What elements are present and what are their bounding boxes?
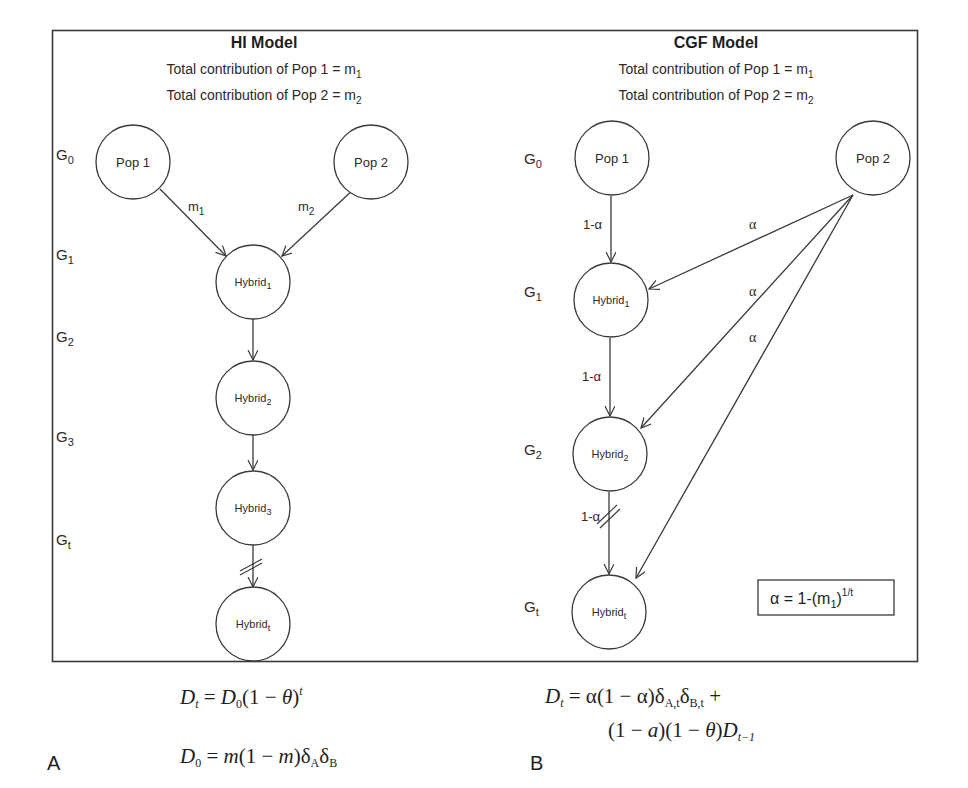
hi-generation-label: G2: [56, 328, 74, 348]
cgf-node-hybrid1: Hybrid1: [574, 263, 648, 337]
hi-node-pop1: Pop 1: [96, 125, 170, 199]
hi-node-pop2: Pop 2: [334, 125, 408, 199]
hi-model-title: HI Model: [231, 34, 298, 51]
panel-label-a: A: [47, 752, 60, 775]
cgf-edge-pop2-hybrid1: [649, 195, 853, 289]
hi-generation-label: G3: [56, 428, 74, 448]
hi-generation-break-icon: [240, 559, 262, 575]
svg-text:α = 1-(m1)1/t: α = 1-(m1)1/t: [770, 587, 853, 610]
cgf-edge-label-1-alpha: 1-α: [582, 369, 602, 384]
hi-contribution-pop2: Total contribution of Pop 2 = m2: [166, 87, 362, 106]
cgf-contribution-pop1: Total contribution of Pop 1 = m1: [618, 61, 814, 80]
svg-text:Pop 2: Pop 2: [354, 155, 388, 170]
svg-text:Pop 2: Pop 2: [856, 151, 890, 166]
hi-model-panel: HI Model Total contribution of Pop 1 = m…: [56, 34, 408, 661]
cgf-edge-label-alpha: α: [749, 284, 757, 299]
svg-text:Pop 1: Pop 1: [116, 155, 150, 170]
svg-text:Pop 1: Pop 1: [595, 151, 629, 166]
cgf-generation-label: G2: [524, 441, 542, 461]
cgf-generation-label: G0: [524, 150, 542, 170]
hi-node-hybrid2: Hybrid2: [216, 361, 290, 435]
hi-equation-d0: D0 = m(1 − m)δAδB: [180, 744, 337, 771]
cgf-contribution-pop2: Total contribution of Pop 2 = m2: [618, 87, 814, 106]
hi-edge-label-m1: m1: [188, 199, 205, 217]
cgf-equation-dt-line2: (1 − a)(1 − θ)Dt−1: [608, 718, 755, 745]
hi-node-hybrid1: Hybrid1: [216, 245, 290, 319]
cgf-edge-label-alpha: α: [749, 330, 757, 345]
cgf-node-pop1: Pop 1: [575, 121, 649, 195]
cgf-edge-label-alpha: α: [749, 217, 757, 232]
cgf-node-hybrid2: Hybrid2: [573, 417, 647, 491]
alpha-formula-box: α = 1-(m1)1/t: [758, 580, 894, 615]
hi-contribution-pop1: Total contribution of Pop 1 = m1: [166, 61, 362, 80]
hi-generation-label: G1: [56, 246, 74, 266]
hi-generation-label: Gt: [56, 531, 71, 551]
cgf-generation-label: Gt: [524, 598, 539, 618]
panel-label-b: B: [530, 752, 543, 775]
cgf-model-panel: CGF Model Total contribution of Pop 1 = …: [524, 34, 910, 649]
hi-node-hybrid3: Hybrid3: [216, 471, 290, 545]
cgf-edge-label-1-alpha: 1-α: [581, 509, 601, 524]
hi-node-hybridt: Hybridt: [216, 587, 290, 661]
cgf-node-pop2: Pop 2: [836, 121, 910, 195]
cgf-edge-pop2-hybrid2: [641, 195, 853, 428]
hi-generation-label: G0: [56, 146, 74, 166]
cgf-edge-pop2-hybridt: [636, 195, 853, 578]
cgf-equation-dt-line1: Dt = α(1 − α)δA,tδB,t +: [545, 684, 721, 711]
hi-edge-pop2-hybrid1: [282, 188, 355, 256]
admixture-models-diagram: HI Model Total contribution of Pop 1 = m…: [0, 0, 968, 788]
cgf-generation-label: G1: [524, 283, 542, 303]
cgf-node-hybridt: Hybridt: [572, 575, 646, 649]
outer-frame: [53, 31, 918, 662]
cgf-edge-label-1-alpha: 1-α: [583, 217, 603, 232]
hi-edge-label-m2: m2: [298, 199, 315, 217]
cgf-model-title: CGF Model: [674, 34, 758, 51]
hi-equation-dt: Dt = D0(1 − θ)t: [180, 684, 303, 712]
